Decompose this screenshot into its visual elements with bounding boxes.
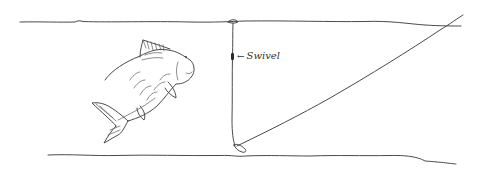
arrow-left-icon: ← <box>237 51 245 61</box>
swivel-icon <box>231 53 234 60</box>
swivel-label: ←Swivel <box>237 50 280 61</box>
diagram-canvas <box>0 0 477 172</box>
swivel-label-text: Swivel <box>247 50 280 61</box>
vertical-line <box>232 23 235 146</box>
lake-bottom-line <box>48 155 456 164</box>
rig-diagram: ←Swivel <box>0 0 477 172</box>
lead-weight-icon <box>234 144 246 152</box>
water-surface-line <box>20 21 461 26</box>
main-line-to-rod <box>237 15 463 146</box>
carp-fish-icon <box>92 40 194 143</box>
